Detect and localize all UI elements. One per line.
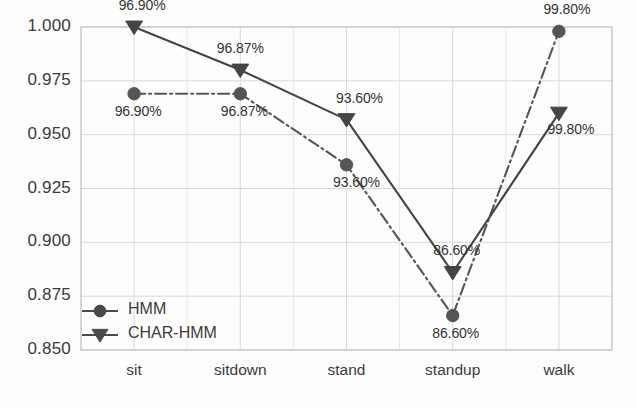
x-tick-label-sitdown: sitdown (180, 361, 300, 379)
marker-circle (128, 88, 140, 100)
marker-triangle-down (338, 114, 355, 127)
marker-triangle-down (444, 267, 461, 280)
x-tick-label-standup: standup (393, 361, 513, 379)
data-label: 96.87% (180, 40, 300, 56)
y-tick-label: 0.925 (0, 178, 71, 198)
y-tick-label: 0.975 (0, 70, 71, 90)
marker-circle (340, 159, 352, 171)
marker-circle (234, 88, 246, 100)
data-label: 93.60% (297, 174, 417, 190)
data-label: 96.90% (82, 0, 202, 13)
data-label: 93.60% (300, 90, 420, 106)
data-label: 96.87% (184, 103, 304, 119)
legend-label-char-hmm: CHAR-HMM (128, 324, 217, 342)
x-tick-label-stand: stand (287, 361, 407, 379)
marker-circle (94, 305, 106, 317)
chart-plot-area (0, 0, 637, 408)
data-label: 86.60% (397, 242, 517, 258)
y-tick-label: 1.000 (0, 16, 71, 36)
data-label: 99.80% (511, 121, 631, 137)
data-label: 96.90% (78, 103, 198, 119)
marker-triangle-down (126, 21, 143, 34)
legend-label-hmm: HMM (128, 300, 166, 318)
marker-triangle-down (232, 64, 249, 77)
data-label: 99.80% (507, 1, 627, 17)
y-tick-label: 0.900 (0, 231, 71, 251)
y-tick-label: 0.850 (0, 339, 71, 359)
marker-triangle-down (551, 107, 568, 120)
data-label: 86.60% (396, 325, 516, 341)
marker-circle (553, 25, 565, 37)
y-tick-label: 0.950 (0, 124, 71, 144)
y-tick-label: 0.875 (0, 285, 71, 305)
marker-circle (447, 309, 459, 321)
line-chart: 0.8500.8750.9000.9250.9500.9751.000 sits… (0, 0, 637, 408)
x-tick-label-walk: walk (499, 361, 619, 379)
legend-markers (82, 305, 118, 342)
x-tick-label-sit: sit (74, 361, 194, 379)
